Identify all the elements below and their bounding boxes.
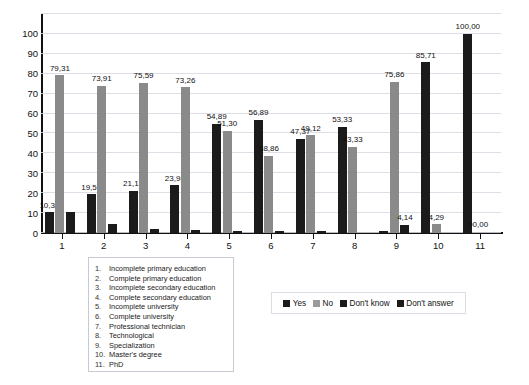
category-name: Master's degree — [109, 350, 227, 360]
bar-group: 53,3343,33 — [334, 14, 376, 233]
y-tick-label: 30 — [2, 169, 38, 179]
bar-no — [181, 87, 190, 233]
category-name: Incomplete university — [109, 302, 227, 312]
bar-yes — [379, 231, 388, 233]
bar-yes — [254, 120, 263, 233]
bar-yes — [170, 185, 179, 233]
legend-label: No — [323, 299, 333, 308]
category-legend-row: 10.Master's degree — [95, 350, 227, 360]
x-tick-mark — [104, 234, 105, 239]
category-legend-row: 8.Technological — [95, 331, 227, 341]
x-tick-label: 9 — [386, 241, 406, 251]
legend-swatch-icon — [397, 300, 404, 307]
category-number: 4. — [95, 293, 109, 303]
bar-group: 47,3749,12 — [292, 14, 334, 233]
bar-value-label: 00,00 — [466, 221, 490, 229]
bar-don-t-know — [108, 224, 117, 233]
category-name: Complete secondary education — [109, 293, 227, 303]
bar-no — [306, 135, 315, 233]
bar-no — [432, 224, 441, 233]
x-tick-mark — [480, 234, 481, 239]
bar-value-label: 43,33 — [341, 136, 365, 144]
bar-no — [348, 147, 357, 233]
y-tick-label: 70 — [2, 89, 38, 99]
bar-value-label: 56,89 — [247, 109, 271, 117]
bar-value-label: 73,91 — [90, 75, 114, 83]
y-tick-label: 20 — [2, 189, 38, 199]
x-tick-label: 4 — [177, 241, 197, 251]
bar-value-label: 38,86 — [257, 145, 281, 153]
x-tick-mark — [438, 234, 439, 239]
bar-no — [390, 82, 399, 233]
legend-item[interactable]: No — [313, 299, 333, 308]
x-tick-label: 5 — [219, 241, 239, 251]
y-tick-label: 40 — [2, 149, 38, 159]
bar-don-t-know — [233, 231, 242, 233]
y-tick-label: 100 — [2, 29, 38, 39]
bar-yes — [421, 62, 430, 233]
legend-label: Don't answer — [406, 299, 454, 308]
category-legend-row: 3.Incomplete secondary education — [95, 283, 227, 293]
category-number: 1. — [95, 264, 109, 274]
bar-yes — [129, 191, 138, 233]
legend-item[interactable]: Yes — [283, 299, 306, 308]
category-name: Specialization — [109, 341, 227, 351]
category-number: 2. — [95, 274, 109, 284]
bar-group: 100,0000,00 — [459, 14, 501, 233]
legend-label: Yes — [293, 299, 306, 308]
x-tick-label: 6 — [261, 241, 281, 251]
bar-don-t-know — [317, 231, 326, 233]
bar-don-t-know — [275, 231, 284, 233]
bar-group: 19,5773,91 — [83, 14, 125, 233]
bar-value-label: 53,33 — [330, 116, 354, 124]
category-legend-row: 5.Incomplete university — [95, 302, 227, 312]
category-number: 11. — [95, 360, 109, 370]
bar-value-label: 75,86 — [382, 71, 406, 79]
bar-no — [55, 75, 64, 233]
x-tick-mark — [396, 234, 397, 239]
category-number: 9. — [95, 341, 109, 351]
category-name: PhD — [109, 360, 227, 370]
bar-don-t-know — [400, 225, 409, 233]
category-legend-row: 1.Incomplete primary education — [95, 264, 227, 274]
bar-value-label: 4,29 — [424, 214, 448, 222]
legend-item[interactable]: Don't know — [340, 299, 390, 308]
y-tick-label: 50 — [2, 129, 38, 139]
x-axis-ticks: 1234567891011 — [41, 234, 503, 256]
legend-item[interactable]: Don't answer — [397, 299, 454, 308]
bar-yes — [212, 124, 221, 233]
y-axis-ticks: 0102030405060708090100 — [0, 14, 38, 233]
bar-yes — [463, 34, 472, 233]
bar-yes — [45, 212, 54, 233]
bar-group: 10,3479,31 — [41, 14, 83, 233]
y-tick-label: 10 — [2, 209, 38, 219]
legend-swatch-icon — [340, 300, 347, 307]
category-name: Complete university — [109, 312, 227, 322]
bar-group: 54,8951,30 — [208, 14, 250, 233]
bar-chart: 0102030405060708090100 10,3479,3119,5773… — [0, 0, 529, 385]
x-tick-mark — [62, 234, 63, 239]
bar-group: 56,8938,86 — [250, 14, 292, 233]
x-tick-mark — [146, 234, 147, 239]
bar-value-label: 51,30 — [215, 120, 239, 128]
bar-no — [97, 86, 106, 233]
bar-no — [223, 131, 232, 233]
bar-value-label: 75,59 — [132, 72, 156, 80]
bar-don-t-know — [150, 229, 159, 233]
x-tick-label: 10 — [428, 241, 448, 251]
legend-swatch-icon — [283, 300, 290, 307]
bar-yes — [296, 139, 305, 233]
x-tick-mark — [229, 234, 230, 239]
x-tick-label: 2 — [94, 241, 114, 251]
category-name: Complete primary education — [109, 274, 227, 284]
category-number: 10. — [95, 350, 109, 360]
x-tick-mark — [271, 234, 272, 239]
category-number: 7. — [95, 322, 109, 332]
category-legend-row: 6.Complete university — [95, 312, 227, 322]
bar-group: 23,9873,26 — [166, 14, 208, 233]
bar-value-label: 49,12 — [299, 125, 323, 133]
x-tick-label: 1 — [52, 241, 72, 251]
bar-don-t-know — [191, 230, 200, 233]
bar-value-label: 85,71 — [414, 52, 438, 60]
bar-no — [264, 156, 273, 233]
